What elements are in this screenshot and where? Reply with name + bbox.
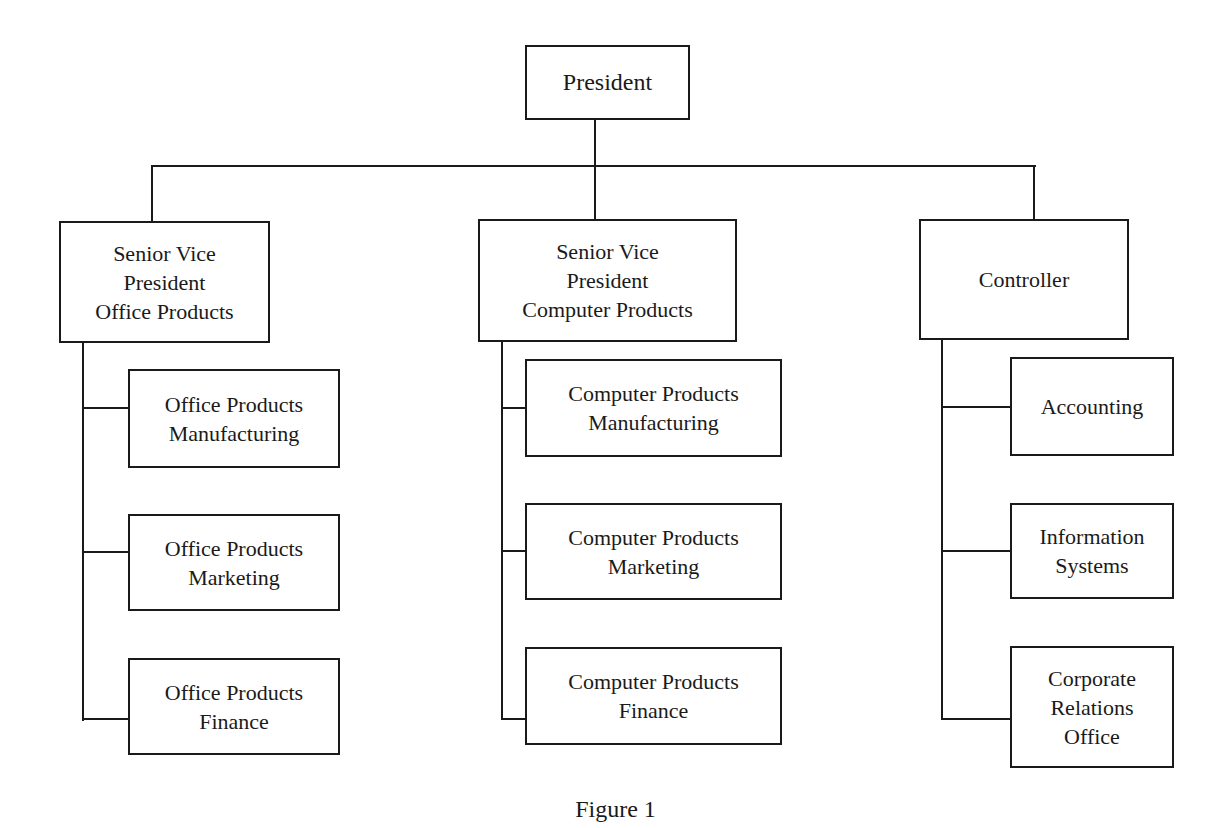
node-label: Information <box>1039 522 1144 551</box>
node-label: Computer Products <box>522 295 693 324</box>
node-label: Corporate <box>1048 664 1136 693</box>
connector-op-mkt <box>82 551 129 553</box>
node-office-products-marketing: Office Products Marketing <box>128 514 340 611</box>
node-label: Office Products <box>95 297 233 326</box>
node-label: Finance <box>199 707 269 736</box>
node-label: Computer Products <box>568 523 739 552</box>
node-label: President <box>567 266 649 295</box>
node-accounting: Accounting <box>1010 357 1174 456</box>
figure-caption: Figure 1 <box>0 796 1231 823</box>
node-label: President <box>124 268 206 297</box>
node-label: Office Products <box>165 678 303 707</box>
node-label: Manufacturing <box>588 408 719 437</box>
node-label: Office <box>1064 722 1120 751</box>
node-office-products-finance: Office Products Finance <box>128 658 340 755</box>
node-computer-products-finance: Computer Products Finance <box>525 647 782 745</box>
connector-cp-fin <box>501 718 526 720</box>
node-label: Manufacturing <box>169 419 300 448</box>
node-label: Computer Products <box>568 667 739 696</box>
node-label: Accounting <box>1041 392 1144 421</box>
node-svp-office-products: Senior Vice President Office Products <box>59 221 270 343</box>
node-computer-products-marketing: Computer Products Marketing <box>525 503 782 600</box>
node-label: Senior Vice <box>556 237 659 266</box>
connector-svp-computer-up <box>594 165 596 220</box>
connector-cp-mfg <box>501 407 526 409</box>
node-label: Marketing <box>188 563 280 592</box>
connector-accounting <box>941 406 1011 408</box>
node-corporate-relations-office: Corporate Relations Office <box>1010 646 1174 768</box>
connector-info-sys <box>941 550 1011 552</box>
connector-controller-up <box>1033 165 1035 220</box>
node-label: Marketing <box>608 552 700 581</box>
node-label: Senior Vice <box>113 239 216 268</box>
connector-svp-office-up <box>151 165 153 222</box>
node-label: Office Products <box>165 534 303 563</box>
connector-corp-rel <box>941 718 1011 720</box>
node-computer-products-manufacturing: Computer Products Manufacturing <box>525 359 782 457</box>
node-controller: Controller <box>919 219 1129 340</box>
connector-president-down <box>594 119 596 167</box>
connector-computer-spine <box>501 340 503 720</box>
node-office-products-manufacturing: Office Products Manufacturing <box>128 369 340 468</box>
node-label: Controller <box>979 265 1069 294</box>
connector-cp-mkt <box>501 550 526 552</box>
node-president: President <box>525 45 690 120</box>
node-label: Relations <box>1050 693 1133 722</box>
connector-office-spine <box>82 341 84 721</box>
node-information-systems: Information Systems <box>1010 503 1174 599</box>
connector-controller-spine <box>941 339 943 720</box>
node-label: Office Products <box>165 390 303 419</box>
connector-op-fin <box>82 718 129 720</box>
node-svp-computer-products: Senior Vice President Computer Products <box>478 219 737 342</box>
node-label: Computer Products <box>568 379 739 408</box>
node-label: Finance <box>619 696 689 725</box>
connector-op-mfg <box>82 407 129 409</box>
node-label: Systems <box>1055 551 1128 580</box>
node-label: President <box>563 68 652 97</box>
